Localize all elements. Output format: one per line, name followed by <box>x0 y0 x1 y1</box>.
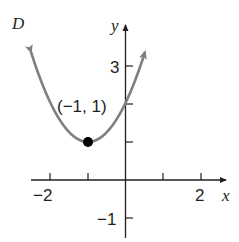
vertex-label: (−1, 1) <box>57 97 107 116</box>
panel-label: D <box>11 14 25 33</box>
x-axis-label: x <box>221 186 230 205</box>
vertex-point <box>83 137 93 147</box>
tick-label-neg1: −1 <box>97 210 116 229</box>
tick-label-3: 3 <box>110 58 119 77</box>
y-axis-label: y <box>109 16 119 35</box>
chart-svg: D y x 3 −1 −2 2 (−1, 1) <box>0 0 239 242</box>
tick-label-2: 2 <box>195 186 204 205</box>
tick-label-neg2: −2 <box>33 186 52 205</box>
